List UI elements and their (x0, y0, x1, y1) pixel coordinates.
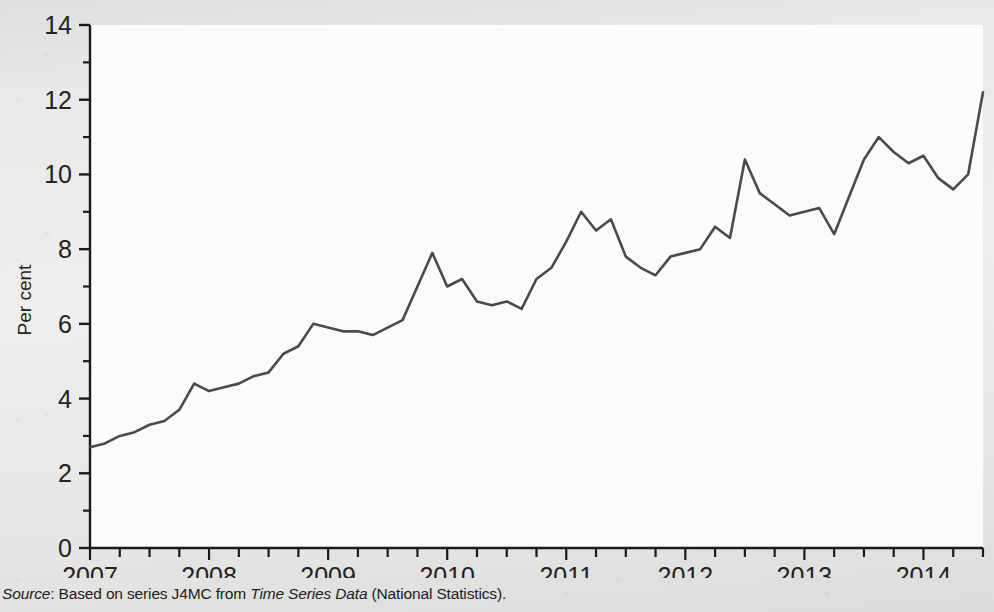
y-tick-label: 4 (58, 385, 72, 413)
x-axis-tick-labels: 20072008200920102011201220132014 (62, 562, 951, 578)
x-tick-label: 2009 (300, 562, 356, 578)
source-text-after: (National Statistics). (367, 585, 506, 602)
figure-source-caption: Source: Based on series J4MC from Time S… (2, 585, 702, 603)
x-axis-ticks (90, 548, 983, 560)
line-chart: 02468101214 2007200820092010201120122013… (0, 0, 994, 578)
source-publication-title: Time Series Data (250, 585, 367, 602)
source-colon: : (50, 585, 58, 602)
y-axis-tick-labels: 02468101214 (44, 11, 72, 562)
x-tick-label: 2010 (419, 562, 475, 578)
x-tick-label: 2014 (896, 562, 952, 578)
source-label: Source (2, 585, 50, 602)
y-tick-label: 10 (44, 160, 72, 188)
y-tick-label: 14 (44, 11, 72, 39)
x-tick-label: 2013 (777, 562, 833, 578)
y-axis-title: Per cent (14, 264, 35, 335)
y-tick-label: 12 (44, 86, 72, 114)
plot-area-background (90, 25, 983, 548)
y-tick-label: 2 (58, 459, 72, 487)
y-axis-ticks (79, 25, 90, 548)
x-tick-label: 2008 (181, 562, 237, 578)
source-text-before: Based on series J4MC from (59, 585, 251, 602)
y-tick-label: 8 (58, 235, 72, 263)
y-tick-label: 6 (58, 310, 72, 338)
y-tick-label: 0 (58, 534, 72, 562)
figure-container: 02468101214 2007200820092010201120122013… (0, 0, 994, 612)
x-tick-label: 2011 (539, 562, 593, 578)
x-tick-label: 2012 (658, 562, 714, 578)
x-tick-label: 2007 (62, 562, 118, 578)
